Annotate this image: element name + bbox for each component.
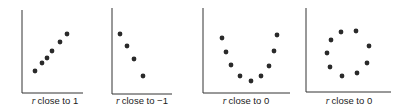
data-point: [224, 50, 229, 55]
data-point: [267, 64, 272, 69]
data-point: [328, 65, 333, 70]
data-point: [329, 38, 334, 43]
data-point: [58, 40, 63, 45]
data-point: [249, 79, 254, 84]
data-point: [132, 57, 137, 62]
data-point: [275, 33, 280, 38]
data-point: [50, 49, 55, 54]
data-point: [118, 32, 123, 37]
data-point: [45, 56, 50, 61]
data-point: [33, 69, 38, 74]
scatter-panel-4: [306, 8, 391, 92]
data-point: [339, 30, 344, 35]
data-point: [365, 61, 370, 66]
data-point: [259, 74, 264, 79]
data-point: [40, 61, 45, 66]
data-point: [238, 74, 243, 79]
data-point: [340, 74, 345, 79]
scatter-panel-3: [203, 8, 290, 93]
scatter-plots: [0, 0, 406, 110]
data-point: [367, 44, 372, 49]
axes: [112, 8, 172, 94]
data-point: [141, 74, 146, 79]
caption-3: rclose to 0: [223, 95, 269, 106]
data-point: [220, 36, 225, 41]
data-point: [125, 44, 130, 49]
caption-4: rclose to 0: [326, 95, 372, 106]
data-point: [229, 63, 234, 68]
data-point: [325, 51, 330, 56]
caption-1: rclose to 1: [32, 95, 78, 106]
axes: [203, 8, 290, 93]
scatter-panel-1: [22, 10, 83, 93]
data-point: [354, 29, 359, 34]
data-point: [272, 49, 277, 54]
scatter-panel-2: [112, 8, 172, 94]
data-point: [355, 71, 360, 76]
caption-2: rclose to −1: [116, 95, 168, 106]
axes: [306, 8, 391, 92]
data-point: [65, 32, 70, 37]
